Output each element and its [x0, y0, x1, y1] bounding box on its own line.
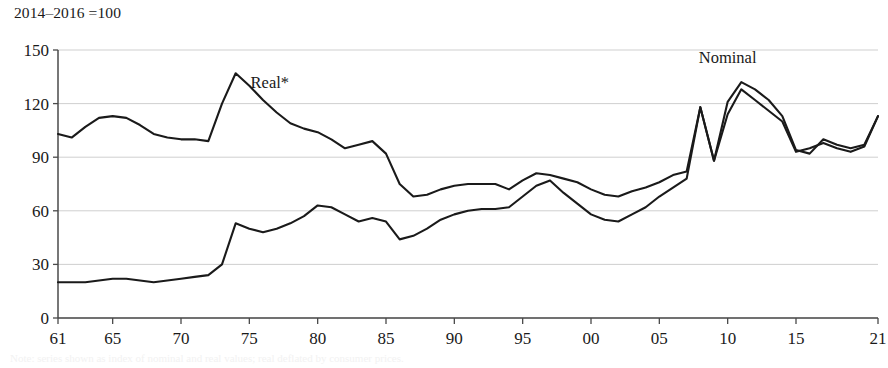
chart-figure: 2014–2016 =100 0306090120150 61657075808…: [0, 0, 888, 368]
x-tick-label: 95: [514, 329, 531, 348]
y-tick-label: 0: [41, 309, 50, 328]
y-axis-tick-labels: 0306090120150: [24, 41, 59, 328]
x-tick-label: 10: [719, 329, 736, 348]
series-line-real: [58, 73, 878, 196]
annotation-real: Real*: [251, 73, 290, 92]
y-tick-label: 120: [24, 95, 50, 114]
x-tick-label: 70: [173, 329, 190, 348]
x-tick-label: 05: [651, 329, 668, 348]
series-annotations-group: Real*Nominal: [251, 48, 757, 92]
annotation-nominal: Nominal: [699, 48, 757, 67]
x-tick-label: 65: [104, 329, 121, 348]
y-tick-label: 30: [32, 255, 49, 274]
data-series-group: [58, 73, 878, 282]
y-tick-label: 60: [32, 202, 49, 221]
x-axis-tick-labels: 61657075808590950005101521: [50, 329, 887, 348]
x-tick-label: 90: [446, 329, 463, 348]
x-axis-tickmarks: [58, 318, 878, 324]
chart-plot-area: 0306090120150 61657075808590950005101521…: [0, 0, 888, 368]
x-tick-label: 00: [583, 329, 600, 348]
x-tick-label: 21: [870, 329, 887, 348]
x-tick-label: 61: [50, 329, 67, 348]
x-tick-label: 75: [241, 329, 258, 348]
y-tick-label: 90: [32, 148, 49, 167]
x-tick-label: 85: [378, 329, 395, 348]
y-tick-label: 150: [24, 41, 50, 60]
series-line-nominal: [58, 89, 878, 282]
x-tick-label: 80: [309, 329, 326, 348]
x-tick-label: 15: [788, 329, 805, 348]
figure-caption: Note: series shown as index of nominal a…: [10, 352, 878, 366]
